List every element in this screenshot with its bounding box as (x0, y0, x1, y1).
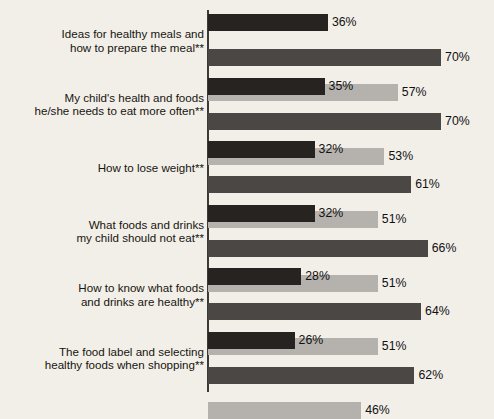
bar-row: 26% (208, 332, 494, 349)
bar-series-1 (208, 205, 315, 222)
bar-value-label: 36% (328, 14, 357, 31)
bar-series-1 (208, 78, 325, 95)
bar-value-label: 32% (315, 205, 344, 222)
bar-cluster: 26%62%46% (208, 332, 494, 383)
bar-series-3 (208, 402, 361, 419)
bar-row: 61% (208, 176, 494, 193)
bar-row: 66% (208, 240, 494, 257)
bar-row: 62% (208, 367, 494, 384)
bar-value-label: 46% (361, 402, 390, 419)
bar-series-1 (208, 268, 301, 285)
category-label: My child's health and foods he/she needs… (14, 91, 204, 118)
bar-series-1 (208, 14, 328, 31)
bar-row: 35% (208, 78, 494, 95)
bar-row: 64% (208, 303, 494, 320)
bar-series-1 (208, 332, 295, 349)
category-label: How to lose weight** (14, 161, 204, 175)
bar-value-label: 64% (421, 303, 450, 320)
bar-series-2 (208, 367, 414, 384)
bar-series-2 (208, 113, 441, 130)
bar-value-label: 35% (325, 78, 354, 95)
category-label: The food label and selecting healthy foo… (14, 345, 204, 372)
bar-row: 70% (208, 49, 494, 66)
bar-value-label: 26% (295, 332, 324, 349)
bar-value-label: 62% (414, 367, 443, 384)
bar-value-label: 70% (441, 113, 470, 130)
bar-value-label: 32% (315, 141, 344, 158)
bar-series-2 (208, 303, 421, 320)
bar-row: 32% (208, 141, 494, 158)
category-label: How to know what foods and drinks are he… (14, 281, 204, 308)
bar-row: 46% (208, 402, 494, 419)
bar-cluster: 32%66%51% (208, 205, 494, 256)
bar-series-2 (208, 49, 441, 66)
bar-row: 32% (208, 205, 494, 222)
bar-row: 36% (208, 14, 494, 31)
bar-series-2 (208, 240, 428, 257)
bar-series-1 (208, 141, 315, 158)
bar-row: 70% (208, 113, 494, 130)
bar-row: 28% (208, 268, 494, 285)
bar-series-2 (208, 176, 411, 193)
bar-value-label: 61% (411, 176, 440, 193)
category-label: Ideas for healthy meals and how to prepa… (14, 27, 204, 54)
bar-value-label: 66% (428, 240, 457, 257)
bar-value-label: 70% (441, 49, 470, 66)
bar-cluster: 32%61%51% (208, 141, 494, 192)
bar-cluster: 28%64%51% (208, 268, 494, 319)
plot-area: Ideas for healthy meals and how to prepa… (0, 10, 494, 394)
bar-value-label: 28% (301, 268, 330, 285)
bar-cluster: 36%70%57% (208, 14, 494, 65)
bar-cluster: 35%70%53% (208, 78, 494, 129)
category-label: What foods and drinks my child should no… (14, 218, 204, 245)
